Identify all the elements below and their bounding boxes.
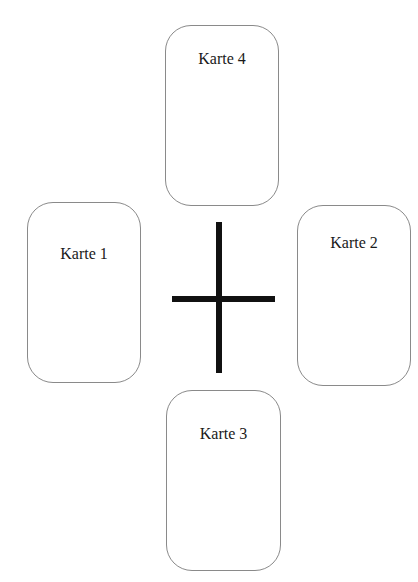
- card-2-label: Karte 2: [298, 234, 410, 252]
- card-1: Karte 1: [27, 202, 141, 383]
- card-2: Karte 2: [297, 205, 411, 386]
- cross-horizontal-bar: [172, 296, 275, 302]
- card-4: Karte 4: [165, 25, 279, 206]
- card-4-label: Karte 4: [166, 50, 278, 68]
- card-3: Karte 3: [166, 390, 281, 571]
- card-3-label: Karte 3: [167, 425, 280, 443]
- card-1-label: Karte 1: [28, 245, 140, 263]
